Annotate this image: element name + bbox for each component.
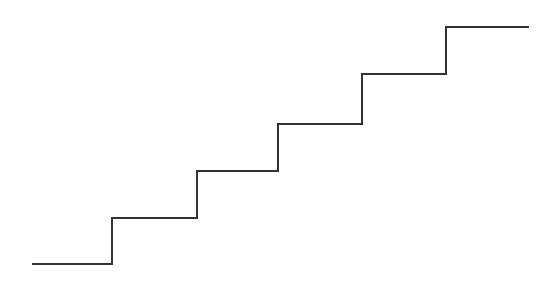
- staircase-line: [32, 27, 529, 264]
- staircase-diagram: [0, 0, 556, 293]
- diagram-canvas: [0, 0, 556, 293]
